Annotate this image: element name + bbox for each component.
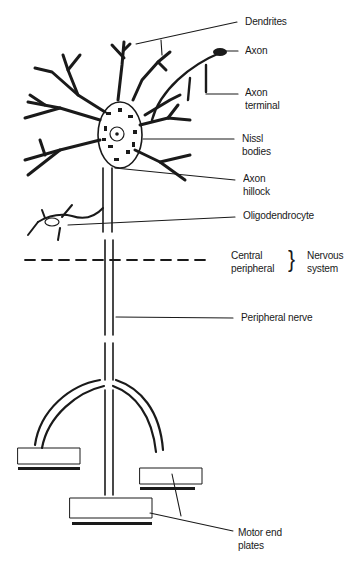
label-nissl-1: Nissl: [242, 132, 263, 145]
axon-tip: [213, 48, 227, 56]
label-axon-terminal-2: terminal: [245, 99, 280, 112]
axon-shaft: [103, 168, 113, 495]
label-motor-end-1: Motor end: [238, 526, 282, 539]
neuron-diagram: Dendrites Axon Axon terminal Nissl bodie…: [0, 0, 351, 563]
leader-lines: [68, 22, 238, 531]
label-nervous-2: system: [307, 262, 338, 275]
label-motor-end-2: plates: [238, 539, 264, 552]
label-nissl-2: bodies: [242, 145, 271, 158]
brace-icon: }: [288, 246, 295, 272]
dendrites: [25, 42, 190, 180]
neuron-drawing: [0, 0, 351, 563]
oligodendrocyte-cell: [28, 205, 103, 240]
label-dendrites: Dendrites: [245, 15, 287, 28]
label-axon-hillock-2: hillock: [243, 185, 270, 198]
label-axon: Axon: [245, 44, 267, 57]
axon-collateral: [152, 52, 222, 120]
nissl-bodies: [102, 108, 137, 161]
label-peripheral: peripheral: [231, 262, 274, 275]
label-nervous-1: Nervous: [307, 249, 343, 262]
label-central: Central: [231, 249, 262, 262]
label-peripheral-nerve: Peripheral nerve: [241, 311, 312, 324]
nucleolus: [115, 132, 119, 136]
label-oligodendrocyte: Oligodendrocyte: [243, 209, 314, 222]
label-axon-terminal-1: Axon: [245, 86, 267, 99]
axon-branches: [35, 380, 163, 452]
label-axon-hillock-1: Axon: [243, 172, 265, 185]
